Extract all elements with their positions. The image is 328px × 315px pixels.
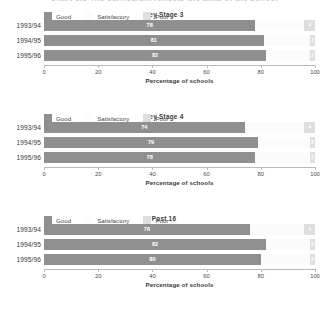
chart-legend: GoodSatisfactoryPoor bbox=[44, 216, 183, 224]
axis-tick bbox=[261, 65, 262, 68]
bar-segment-good: 74 bbox=[44, 122, 245, 133]
page-caption: Chart 3.5 The curriculum reflects the ai… bbox=[0, 0, 328, 7]
axis-tick bbox=[261, 269, 262, 272]
bar-value-label: 78 bbox=[44, 20, 255, 31]
axis-tick-label: 60 bbox=[203, 69, 209, 75]
category-label: 1994/95 bbox=[0, 35, 41, 46]
axis-tick-label: 80 bbox=[258, 69, 264, 75]
bar-row: 1995/96782 bbox=[0, 152, 328, 163]
legend-item-poor[interactable]: Poor bbox=[143, 216, 168, 224]
legend-swatch-satisfactory bbox=[85, 216, 93, 224]
axis-tick bbox=[207, 65, 208, 68]
bar-segment-satisfactory bbox=[266, 239, 309, 250]
axis-tick bbox=[98, 65, 99, 68]
axis-tick bbox=[152, 65, 153, 68]
bar-segment-satisfactory bbox=[264, 35, 310, 46]
legend-item-satisfactory[interactable]: Satisfactory bbox=[85, 12, 129, 20]
bar-value-label: 2 bbox=[310, 152, 315, 163]
legend-item-poor[interactable]: Poor bbox=[143, 114, 168, 122]
legend-swatch-poor bbox=[143, 114, 151, 122]
bar-segment-good: 81 bbox=[44, 35, 264, 46]
bar-value-label: 74 bbox=[44, 122, 245, 133]
axis-tick bbox=[98, 269, 99, 272]
legend-swatch-good bbox=[44, 216, 52, 224]
bar-segment-poor: 4 bbox=[304, 122, 315, 133]
axis-tick-label: 0 bbox=[42, 273, 45, 279]
chart-page: Chart 3.5 The curriculum reflects the ai… bbox=[0, 0, 328, 315]
legend-label: Satisfactory bbox=[97, 217, 129, 224]
x-axis: 020406080100 bbox=[44, 65, 315, 66]
x-axis: 020406080100 bbox=[44, 167, 315, 168]
axis-title: Percentage of schools bbox=[44, 179, 315, 186]
bar-track: 822 bbox=[44, 239, 315, 250]
bar-segment-satisfactory bbox=[266, 50, 309, 61]
axis-tick-label: 80 bbox=[258, 273, 264, 279]
legend-swatch-satisfactory bbox=[85, 12, 93, 20]
bar-value-label: 76 bbox=[44, 224, 250, 235]
axis-tick-label: 40 bbox=[149, 69, 155, 75]
axis-tick-label: 60 bbox=[203, 273, 209, 279]
bar-row: 1995/96802 bbox=[0, 254, 328, 265]
legend-item-satisfactory[interactable]: Satisfactory bbox=[85, 216, 129, 224]
bar-segment-poor: 2 bbox=[310, 50, 315, 61]
bar-rows: 1993/947841994/958121995/96822 bbox=[0, 20, 328, 65]
bar-value-label: 4 bbox=[304, 122, 315, 133]
bar-track: 744 bbox=[44, 122, 315, 133]
axis-tick bbox=[44, 167, 45, 170]
legend-item-good[interactable]: Good bbox=[44, 216, 71, 224]
bar-track: 812 bbox=[44, 35, 315, 46]
axis-tick-label: 0 bbox=[42, 171, 45, 177]
bar-segment-poor: 2 bbox=[310, 137, 315, 148]
bar-segment-good: 82 bbox=[44, 50, 266, 61]
plot-area: 1993/947841994/958121995/968220204060801… bbox=[0, 20, 328, 70]
axis-tick bbox=[261, 167, 262, 170]
chart-panel-key-stage-4: Key Stage 4 1993/947441994/957921995/967… bbox=[0, 112, 328, 172]
bar-segment-poor: 4 bbox=[304, 20, 315, 31]
axis-tick bbox=[207, 167, 208, 170]
axis-tick-label: 80 bbox=[258, 171, 264, 177]
legend-item-good[interactable]: Good bbox=[44, 114, 71, 122]
axis-tick-label: 20 bbox=[95, 69, 101, 75]
axis-tick bbox=[44, 65, 45, 68]
bar-row: 1994/95822 bbox=[0, 239, 328, 250]
bar-row: 1993/94744 bbox=[0, 122, 328, 133]
bar-segment-satisfactory bbox=[250, 224, 304, 235]
bar-segment-good: 78 bbox=[44, 20, 255, 31]
axis-title: Percentage of schools bbox=[44, 77, 315, 84]
legend-label: Good bbox=[56, 13, 71, 20]
bar-segment-satisfactory bbox=[261, 254, 310, 265]
bar-row: 1994/95792 bbox=[0, 137, 328, 148]
legend-item-satisfactory[interactable]: Satisfactory bbox=[85, 114, 129, 122]
category-label: 1995/96 bbox=[0, 152, 41, 163]
legend-item-poor[interactable]: Poor bbox=[143, 12, 168, 20]
bar-value-label: 80 bbox=[44, 254, 261, 265]
bar-value-label: 82 bbox=[44, 50, 266, 61]
axis-tick bbox=[315, 269, 316, 272]
axis-tick-label: 100 bbox=[310, 69, 320, 75]
bar-track: 782 bbox=[44, 152, 315, 163]
bar-row: 1995/96822 bbox=[0, 50, 328, 61]
bar-segment-good: 80 bbox=[44, 254, 261, 265]
x-axis: 020406080100 bbox=[44, 269, 315, 270]
caption-text: Chart 3.5 The curriculum reflects the ai… bbox=[50, 0, 278, 3]
bar-value-label: 81 bbox=[44, 35, 264, 46]
bar-segment-poor: 2 bbox=[310, 254, 315, 265]
bar-segment-good: 79 bbox=[44, 137, 258, 148]
category-label: 1993/94 bbox=[0, 122, 41, 133]
legend-label: Satisfactory bbox=[97, 115, 129, 122]
bar-segment-satisfactory bbox=[258, 137, 309, 148]
axis-title: Percentage of schools bbox=[44, 281, 315, 288]
chart-legend: GoodSatisfactoryPoor bbox=[44, 12, 183, 20]
category-label: 1993/94 bbox=[0, 224, 41, 235]
bar-value-label: 82 bbox=[44, 239, 266, 250]
axis-tick-label: 60 bbox=[203, 171, 209, 177]
legend-item-good[interactable]: Good bbox=[44, 12, 71, 20]
axis-tick bbox=[98, 167, 99, 170]
chart-panel-key-stage-3: Key Stage 3 1993/947841994/958121995/968… bbox=[0, 10, 328, 70]
legend-swatch-poor bbox=[143, 216, 151, 224]
bar-value-label: 2 bbox=[310, 239, 315, 250]
bar-segment-good: 82 bbox=[44, 239, 266, 250]
bar-segment-satisfactory bbox=[255, 152, 309, 163]
bar-row: 1993/94764 bbox=[0, 224, 328, 235]
bar-segment-satisfactory bbox=[255, 20, 304, 31]
